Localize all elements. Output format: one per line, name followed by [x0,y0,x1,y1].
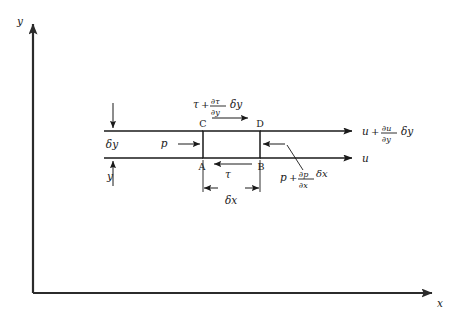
top-velocity-plus: + [371,126,379,137]
bottom-shear-label: τ [225,168,231,180]
fluid-element-rect [203,131,260,158]
top-velocity-base: u [362,125,369,137]
height-dimension-label: δy [106,138,119,150]
width-dimension-label: δx [225,194,237,206]
corner-label-d: D [256,118,264,129]
top-shear-multiplier: δy [230,98,243,110]
right-pressure-multiplier: δx [316,168,328,179]
width-dimension-group: δx [203,160,260,206]
right-pressure-denominator: ∂x [299,181,308,190]
corner-label-a: A [198,161,206,172]
wall-distance-label: y [106,170,114,182]
top-velocity-label: u + ∂u ∂y δy [362,124,414,144]
corner-label-b: B [258,161,265,172]
top-shear-base: τ [193,98,199,110]
fluid-element-diagram: C D A B τ + ∂τ ∂y δy τ p p + ∂p ∂x [0,0,463,322]
top-velocity-denominator: ∂y [382,135,391,144]
element-body [203,131,260,158]
corner-label-c: C [199,118,206,129]
left-pressure-label: p [161,137,168,149]
x-axis-label: x [437,297,443,309]
right-pressure-base: p [280,171,287,183]
top-shear-denominator: ∂y [211,108,220,117]
top-velocity-multiplier: δy [401,125,414,137]
top-shear-label: τ + ∂τ ∂y δy [193,97,243,117]
diagram-canvas: C D A B τ + ∂τ ∂y δy τ p p + ∂p ∂x [0,0,463,322]
y-axis-label: y [16,15,24,27]
top-shear-numerator: ∂τ [211,97,220,106]
bottom-velocity-label: u [362,152,369,164]
top-velocity-numerator: ∂u [382,124,391,133]
top-shear-plus: + [201,99,209,110]
right-pressure-numerator: ∂p [299,170,308,179]
right-pressure-label: p + ∂p ∂x δx [280,168,328,190]
right-pressure-plus: + [289,172,297,183]
